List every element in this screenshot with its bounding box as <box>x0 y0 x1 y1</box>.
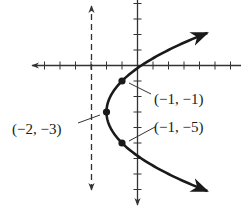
leader-line-neg1-neg5 <box>129 127 155 141</box>
parabola-curve <box>107 33 208 191</box>
vertex-point <box>103 108 110 115</box>
y-axis <box>134 0 142 205</box>
point-neg1-neg1 <box>118 77 125 84</box>
label-neg1-neg1: (−1, −1) <box>154 91 203 108</box>
point-neg1-neg5 <box>118 139 125 146</box>
label-vertex: (−2, −3) <box>12 121 61 138</box>
label-neg1-neg5: (−1, −5) <box>154 119 203 136</box>
leader-line-vertex <box>78 115 100 123</box>
parabola-graph: (−1, −1) (−2, −3) (−1, −5) <box>0 0 241 214</box>
leader-line-neg1-neg1 <box>129 83 151 94</box>
